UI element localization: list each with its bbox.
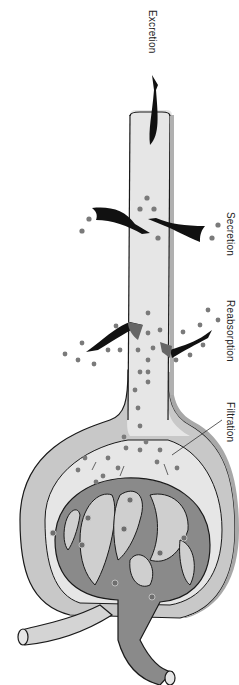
glomerulus — [50, 478, 210, 685]
label-secretion: Secretion — [225, 212, 236, 256]
label-reabsorption: Reabsorption — [225, 300, 236, 362]
label-excretion: Excretion — [147, 10, 158, 54]
nephron-diagram: Excretion Secretion Reabsorption Filtrat… — [0, 0, 239, 685]
afferent-opening — [18, 629, 28, 645]
efferent-opening — [165, 671, 175, 685]
nephron-illustration — [0, 0, 239, 685]
label-filtration: Filtration — [225, 402, 236, 442]
